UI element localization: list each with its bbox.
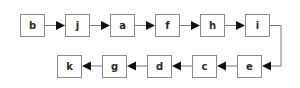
node-j: j (66, 15, 90, 37)
node-f: f (156, 15, 180, 37)
arrowhead-icon (172, 62, 181, 71)
edge-g-k (82, 62, 102, 71)
node-i: i (246, 15, 270, 37)
arrowhead-icon (127, 62, 136, 71)
node-label: c (202, 61, 208, 72)
arrowhead-icon (191, 21, 200, 30)
edge-d-g (127, 62, 147, 71)
node-label: k (66, 61, 73, 72)
arrowhead-icon (236, 21, 245, 30)
node-label: h (209, 20, 216, 31)
edge-a-f (134, 21, 155, 30)
edge-e-c (217, 62, 237, 71)
arrowhead-icon (56, 21, 65, 30)
arrowhead-icon (217, 62, 226, 71)
arrowhead-icon (82, 62, 91, 71)
node-label: d (156, 61, 163, 72)
arrowhead-icon (146, 21, 155, 30)
node-a: a (111, 15, 135, 37)
edge-h-i (225, 21, 245, 30)
node-label: j (75, 20, 79, 31)
node-d: d (148, 56, 172, 78)
edge-f-h (180, 21, 200, 30)
node-e: e (238, 56, 262, 78)
node-g: g (103, 56, 127, 78)
node-b: b (21, 15, 45, 37)
node-label: a (119, 20, 126, 31)
edge-j-a (89, 21, 110, 30)
node-h: h (201, 15, 225, 37)
chain-diagram: b j a f h i k g d c e (0, 0, 300, 88)
node-k: k (58, 56, 82, 78)
node-label: g (111, 61, 118, 72)
node-label: e (246, 61, 253, 72)
node-label: i (256, 20, 259, 31)
node-label: b (29, 20, 36, 31)
arrowhead-icon (101, 21, 110, 30)
arrowhead-icon (262, 62, 271, 71)
edge-c-d (172, 62, 192, 71)
node-label: f (165, 20, 170, 31)
node-c: c (193, 56, 217, 78)
edge-b-j (44, 21, 65, 30)
